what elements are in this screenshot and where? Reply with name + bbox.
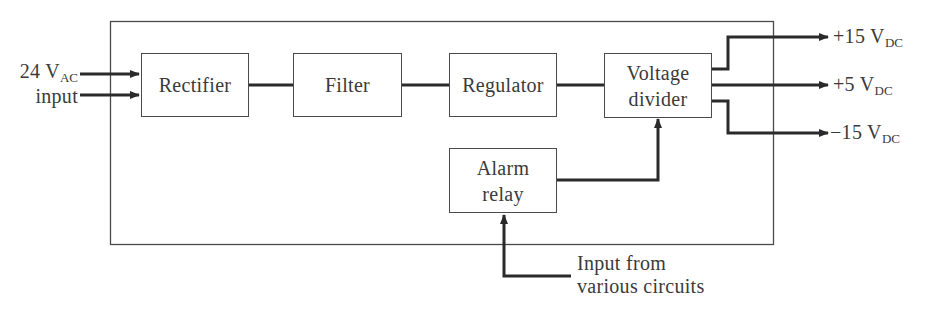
output-plus15-label: +15 VDC [833, 24, 903, 55]
output-minus15-line [712, 101, 828, 133]
voltage-divider-block: Voltage divider [604, 53, 712, 118]
power-supply-block-diagram: Rectifier Filter Regulator Voltage divid… [0, 0, 932, 312]
alarm-relay-label-2: relay [482, 181, 523, 207]
rectifier-block: Rectifier [141, 53, 249, 117]
voltage-divider-label-1: Voltage [627, 60, 690, 86]
alarm-relay-block: Alarm relay [449, 148, 557, 213]
input-label: input [35, 84, 78, 108]
alarm-relay-label-1: Alarm [477, 155, 530, 181]
filter-block: Filter [293, 53, 402, 117]
alarm-input-label-2: various circuits [577, 274, 705, 298]
voltage-divider-label-2: divider [629, 86, 688, 112]
rectifier-label: Rectifier [159, 72, 232, 98]
external-input-line [504, 215, 571, 276]
output-plus15-line [712, 37, 828, 69]
regulator-block: Regulator [449, 53, 557, 117]
output-minus15-label: −15 VDC [830, 120, 900, 151]
alarm-input-label-1: Input from [577, 251, 666, 275]
regulator-label: Regulator [462, 72, 544, 98]
filter-label: Filter [325, 72, 370, 98]
alarm-to-divider-line [557, 119, 658, 180]
output-plus5-label: +5 VDC [833, 72, 893, 103]
